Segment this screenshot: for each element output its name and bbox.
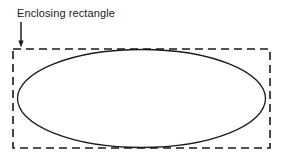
annotation-label: Enclosing rectangle — [17, 7, 115, 19]
diagram-background — [0, 0, 283, 163]
enclosing-rectangle-diagram: Enclosing rectangle — [0, 0, 283, 163]
figure-canvas: Enclosing rectangle — [0, 0, 283, 163]
